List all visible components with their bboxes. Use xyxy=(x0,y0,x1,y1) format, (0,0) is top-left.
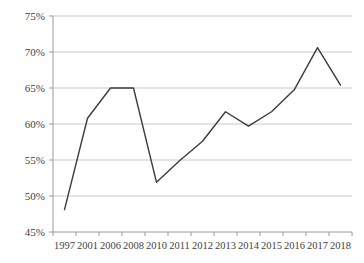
y-tick-label: 55% xyxy=(25,154,45,166)
y-tick-label: 60% xyxy=(25,118,45,130)
x-tick-label: 2006 xyxy=(100,240,121,251)
chart-background xyxy=(0,0,364,263)
y-tick-label: 50% xyxy=(25,190,45,202)
x-tick-label: 1997 xyxy=(54,240,75,251)
chart-canvas: 45%50%55%60%65%70%75% 199720012006200820… xyxy=(0,0,364,263)
x-tick-label: 2014 xyxy=(238,240,260,251)
y-tick-label: 65% xyxy=(25,82,45,94)
x-tick-label: 2015 xyxy=(261,240,282,251)
x-tick-label: 2008 xyxy=(123,240,144,251)
y-tick-label: 45% xyxy=(25,226,45,238)
y-tick-label: 75% xyxy=(25,10,45,22)
x-tick-label: 2001 xyxy=(77,240,98,251)
x-tick-label: 2013 xyxy=(215,240,236,251)
line-chart: 45%50%55%60%65%70%75% 199720012006200820… xyxy=(0,0,364,263)
x-tick-label: 2010 xyxy=(146,240,167,251)
x-tick-label: 2012 xyxy=(192,240,213,251)
x-tick-label: 2018 xyxy=(330,240,351,251)
y-tick-label: 70% xyxy=(25,46,45,58)
x-tick-label: 2011 xyxy=(169,240,190,251)
x-tick-label: 2016 xyxy=(284,240,305,251)
x-tick-label: 2017 xyxy=(307,240,328,251)
